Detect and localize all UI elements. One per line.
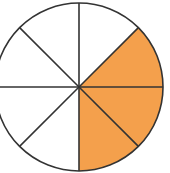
fraction-circle-svg [0,0,170,173]
fraction-circle-diagram: 3/8 [0,0,170,173]
